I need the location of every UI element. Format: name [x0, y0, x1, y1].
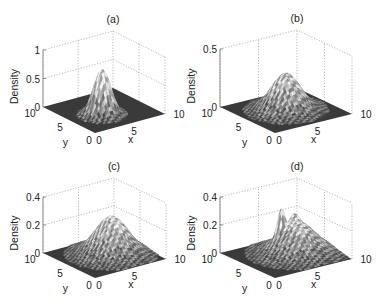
x-axis-label: x	[128, 133, 134, 145]
y-tick-label: 5	[236, 122, 242, 133]
x-tick-label: 0	[276, 280, 282, 291]
x-axis-label: x	[128, 278, 134, 290]
z-axis-label: Density	[8, 68, 20, 104]
z-tick-label: 0.5	[26, 74, 40, 85]
y-tick-label: 10	[201, 254, 213, 265]
x-axis-label: x	[311, 133, 317, 145]
z-axis-label: Density	[8, 215, 20, 251]
z-tick-label: 1	[34, 45, 40, 56]
y-axis-label: y	[63, 282, 69, 294]
x-tick-label: 10	[360, 109, 372, 120]
panel-title: (a)	[107, 13, 120, 25]
y-tick-label: 5	[236, 268, 242, 279]
x-tick-label: 0	[96, 280, 102, 291]
z-tick-label: 0.2	[26, 220, 40, 231]
surface-plot-a: 00.51Density10500510yx(a)	[8, 13, 185, 148]
surface-plot-c: 00.20.4Density10500510yx(c)	[8, 160, 186, 294]
y-tick-label: 0	[86, 135, 92, 146]
panel-title: (d)	[291, 160, 304, 172]
z-tick-label: 0.2	[203, 220, 217, 231]
z-axis-label: Density	[185, 68, 197, 104]
panel-title: (c)	[108, 160, 120, 172]
x-tick-label: 0	[276, 135, 282, 146]
x-tick-label: 0	[96, 135, 102, 146]
panel-title: (b)	[291, 12, 304, 24]
y-axis-label: y	[242, 136, 248, 148]
surface-plot-d: 00.20.4Density10500510yx(d)	[185, 160, 372, 294]
y-tick-label: 0	[266, 135, 272, 146]
y-tick-label: 10	[201, 108, 213, 119]
y-axis-label: y	[242, 282, 248, 294]
x-tick-label: 10	[174, 254, 186, 265]
z-tick-label: 0.4	[26, 192, 40, 203]
figure-canvas: 00.51Density10500510yx(a)00.5Density1050…	[0, 0, 378, 306]
surface-plot-b: 00.5Density10500510yx(b)	[185, 12, 372, 148]
x-axis-label: x	[311, 278, 317, 290]
y-tick-label: 0	[86, 280, 92, 291]
y-tick-label: 5	[57, 268, 63, 279]
z-tick-label: 0.4	[203, 192, 217, 203]
z-axis-label: Density	[185, 215, 197, 251]
y-tick-label: 10	[24, 254, 36, 265]
y-tick-label: 10	[24, 108, 36, 119]
z-tick-label: 0.5	[203, 44, 217, 55]
y-tick-label: 5	[57, 122, 63, 133]
y-axis-label: y	[63, 136, 69, 148]
x-tick-label: 10	[173, 109, 185, 120]
x-tick-label: 10	[360, 254, 372, 265]
y-tick-label: 0	[266, 280, 272, 291]
